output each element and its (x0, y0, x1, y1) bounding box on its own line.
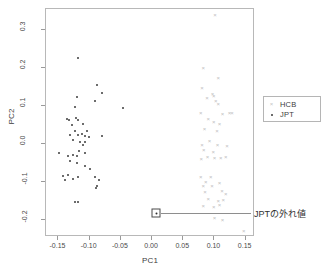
outlier-highlight-box (152, 209, 161, 218)
data-point-jpt (84, 152, 86, 154)
data-point-jpt (72, 178, 74, 180)
x-tick-label: -0.05 (112, 242, 128, 249)
data-point-jpt (71, 124, 73, 126)
data-point-hcb: × (206, 197, 211, 202)
data-point-hcb: × (203, 179, 208, 184)
y-axis-title: PC2 (3, 112, 19, 121)
data-point-hcb: × (217, 122, 222, 127)
x-tick-label: -0.10 (81, 242, 97, 249)
data-point-jpt (66, 118, 68, 120)
data-point-hcb: × (199, 142, 204, 147)
legend-entry-jpt: JPT (268, 109, 294, 120)
data-point-jpt (62, 175, 64, 177)
data-point-hcb: × (211, 94, 216, 99)
data-point-jpt (72, 154, 74, 156)
data-point-jpt (122, 107, 124, 109)
data-point-hcb: × (214, 128, 219, 133)
data-point-jpt (79, 141, 81, 143)
data-point-jpt (86, 130, 88, 132)
y-tick (41, 143, 45, 144)
y-tick-label-text: 0.1 (19, 98, 26, 108)
data-point-jpt (101, 135, 103, 137)
x-tick (89, 236, 90, 240)
data-point-jpt (88, 136, 90, 138)
data-point-hcb: × (211, 149, 216, 154)
data-point-jpt (89, 168, 91, 170)
data-point-hcb: × (216, 198, 221, 203)
y-tick-label-text: -0.2 (21, 210, 28, 222)
y-tick (41, 181, 45, 182)
y-tick-label-text: 0.2 (19, 60, 26, 70)
data-point-hcb: × (198, 174, 203, 179)
x-marker-icon: × (268, 101, 275, 108)
y-tick-label: 0.2 (18, 61, 28, 68)
data-point-jpt (76, 155, 78, 157)
data-point-hcb: × (218, 155, 223, 160)
data-point-hcb: × (206, 117, 211, 122)
data-point-jpt (94, 100, 96, 102)
x-tick (151, 236, 152, 240)
y-tick-label: 0.1 (18, 99, 28, 106)
data-point-jpt (78, 150, 80, 152)
y-tick-label: 0.0 (18, 137, 28, 144)
data-point-jpt (82, 123, 84, 125)
data-point-hcb: × (223, 155, 228, 160)
y-tick-label-text: 0.3 (19, 22, 26, 32)
legend-label-jpt: JPT (280, 110, 294, 119)
legend: × HCB JPT (263, 96, 321, 122)
y-tick (41, 67, 45, 68)
data-point-jpt (64, 179, 66, 181)
data-point-jpt (74, 130, 76, 132)
data-point-jpt (75, 117, 77, 119)
data-point-hcb: × (212, 216, 217, 221)
data-point-jpt (84, 141, 86, 143)
x-tick-label: 0.15 (238, 242, 252, 249)
data-point-jpt (72, 139, 74, 141)
x-tick (57, 236, 58, 240)
data-point-hcb: × (211, 119, 216, 124)
data-point-hcb: × (207, 139, 212, 144)
data-point-jpt (67, 155, 69, 157)
data-point-hcb: × (202, 127, 207, 132)
data-point-jpt (69, 134, 71, 136)
data-point-jpt (58, 152, 60, 154)
data-point-hcb: × (219, 189, 224, 194)
data-point-hcb: × (213, 99, 218, 104)
data-point-hcb: × (201, 147, 206, 152)
data-point-hcb: × (227, 110, 232, 115)
data-point-jpt (96, 84, 98, 86)
y-tick-label: -0.2 (18, 213, 30, 220)
y-tick (41, 29, 45, 30)
data-point-hcb: × (221, 198, 226, 203)
data-point-hcb: × (201, 184, 206, 189)
y-tick-label-text: 0.0 (19, 136, 26, 146)
data-point-hcb: × (211, 204, 216, 209)
x-tick-label: 0.05 (175, 242, 189, 249)
data-point-jpt (67, 174, 69, 176)
data-point-hcb: × (223, 191, 228, 196)
data-point-hcb: × (205, 154, 210, 159)
legend-label-hcb: HCB (280, 100, 296, 109)
data-point-hcb: × (203, 190, 208, 195)
scatter-plot-figure: ××××××××××××××××××××××××××××××××××××××××… (0, 0, 333, 275)
data-point-hcb: × (220, 217, 225, 222)
data-point-jpt (81, 133, 83, 135)
data-point-hcb: × (224, 143, 229, 148)
data-point-hcb: × (210, 92, 215, 97)
data-point-jpt (77, 176, 79, 178)
data-point-jpt (95, 187, 97, 189)
y-tick-label-text: -0.1 (21, 172, 28, 184)
data-point-hcb: × (199, 85, 204, 90)
x-tick (213, 236, 214, 240)
data-point-jpt (74, 106, 76, 108)
y-tick (41, 219, 45, 220)
data-point-jpt (76, 96, 78, 98)
y-tick (41, 105, 45, 106)
x-axis-title: PC1 (142, 256, 158, 265)
data-point-jpt (84, 165, 86, 167)
data-point-jpt (74, 201, 76, 203)
data-point-jpt (84, 135, 86, 137)
data-point-hcb: × (229, 111, 234, 116)
data-point-jpt (98, 179, 100, 181)
data-point-hcb: × (209, 183, 214, 188)
